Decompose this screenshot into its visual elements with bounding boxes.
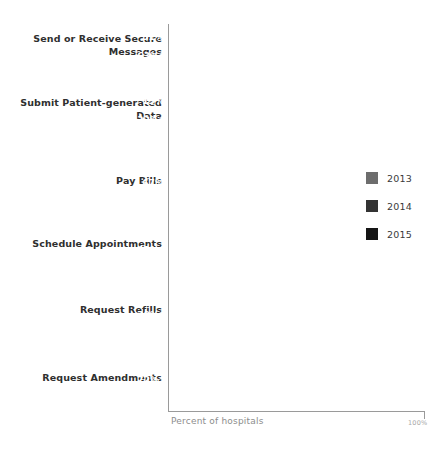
bar-value-label: 39%* bbox=[137, 310, 164, 320]
category-label: Pay Bills bbox=[12, 175, 162, 188]
bar-value-label: 32%* bbox=[137, 115, 164, 125]
bar-value-label: 27% bbox=[142, 291, 164, 301]
legend-label: 2014 bbox=[387, 201, 412, 212]
x-axis-line bbox=[168, 411, 425, 412]
bar-row: 41%* bbox=[169, 241, 274, 258]
legend-item-2014[interactable]: 2014 bbox=[366, 200, 441, 212]
bar-row: 27% bbox=[169, 287, 238, 304]
legend-swatch-icon bbox=[366, 172, 378, 184]
bar-row: 42%* bbox=[169, 325, 277, 342]
legend-swatch-icon bbox=[366, 200, 378, 212]
bar-value-label: 41%* bbox=[137, 245, 164, 255]
bar-value-label: 51% bbox=[142, 32, 164, 42]
x-axis-label: Percent of hospitals bbox=[171, 416, 264, 426]
bar-value-label: 29% bbox=[142, 226, 164, 236]
bar-value-label: 37%* bbox=[137, 134, 164, 144]
bar-row: 32%* bbox=[169, 111, 251, 128]
chart-legend: 201320142015 bbox=[366, 172, 441, 256]
category-label-line: Pay Bills bbox=[12, 175, 162, 188]
bar-value-label: 42%* bbox=[137, 329, 164, 339]
bar-value-label: 63%* bbox=[137, 51, 164, 61]
bar-value-label: 74%* bbox=[137, 197, 164, 207]
legend-item-2015[interactable]: 2015 bbox=[366, 228, 441, 240]
legend-label: 2015 bbox=[387, 229, 412, 240]
bar-chart: Send or Receive SecureMessages51%63%*Sub… bbox=[0, 0, 445, 450]
bar-row: 74%* bbox=[169, 193, 359, 210]
category-label-line: Submit Patient-generated bbox=[12, 97, 162, 110]
bar-row: 33% bbox=[169, 352, 254, 369]
bar-row: 67% bbox=[169, 174, 341, 191]
bar-row: 13% bbox=[169, 92, 202, 109]
bar-value-label: 67% bbox=[142, 178, 164, 188]
x-axis-max-label: 100% bbox=[408, 419, 427, 427]
bar-value-label: 44% bbox=[142, 264, 164, 274]
category-label-line: Send or Receive Secure bbox=[12, 33, 162, 46]
bar-row: 29% bbox=[169, 222, 243, 239]
bar-row: 55% bbox=[169, 155, 310, 172]
bar-row: 63%* bbox=[169, 47, 331, 64]
legend-swatch-icon bbox=[366, 228, 378, 240]
bar-value-label: 13% bbox=[142, 96, 164, 106]
bar-row: 37%* bbox=[169, 130, 264, 147]
x-axis-max-tick bbox=[424, 411, 425, 419]
bar-row: 39%* bbox=[169, 306, 269, 323]
bar-row: 44% bbox=[169, 260, 282, 277]
bar-row: 72%* bbox=[169, 371, 354, 388]
bar-value-label: 72%* bbox=[137, 375, 164, 385]
legend-label: 2013 bbox=[387, 173, 412, 184]
bar-row: 51% bbox=[169, 28, 300, 45]
bar-value-label: 55% bbox=[142, 159, 164, 169]
bar-row: 77%* bbox=[169, 390, 367, 407]
legend-item-2013[interactable]: 2013 bbox=[366, 172, 441, 184]
bar-value-label: 77%* bbox=[137, 394, 164, 404]
bar-value-label: 33% bbox=[142, 356, 164, 366]
